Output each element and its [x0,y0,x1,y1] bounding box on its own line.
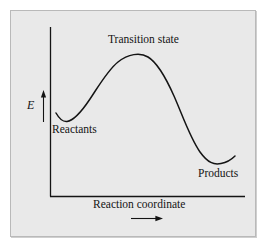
reactants-label: Reactants [52,124,97,136]
up-arrow-icon [41,90,46,122]
energy-profile-curve [56,54,235,164]
products-label: Products [198,168,238,180]
transition-state-label: Transition state [108,34,179,46]
y-axis-label: E [27,99,34,111]
right-arrow-icon [131,216,163,221]
reaction-energy-diagram: Transition state Reactants Products Reac… [0,0,274,248]
x-axis-label: Reaction coordinate [93,199,185,211]
